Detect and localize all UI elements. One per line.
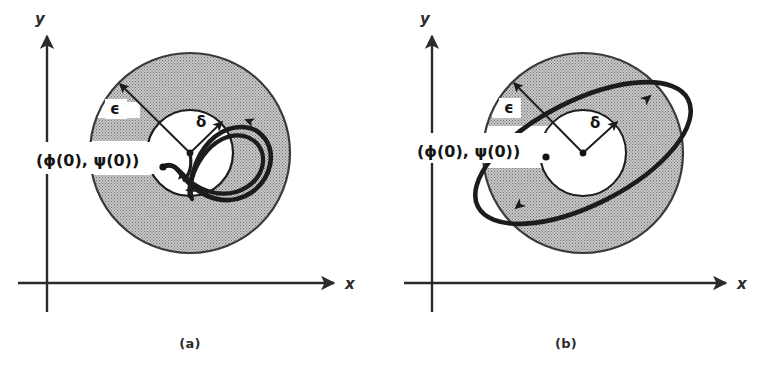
panel-a: y x ϵ δ xyxy=(0,0,386,365)
panel-b: y x ϵ xyxy=(386,0,772,365)
center-dot-b xyxy=(580,150,587,157)
initial-point-label-a: (ϕ(0), ψ(0)) xyxy=(36,151,139,170)
initial-point-a: (ϕ(0), ψ(0)) xyxy=(33,142,167,174)
initial-point-dot-a xyxy=(159,163,166,170)
panel-a-canvas: y x ϵ δ xyxy=(0,0,386,365)
delta-label-a: δ xyxy=(196,113,206,131)
initial-point-dot-b xyxy=(542,153,549,160)
epsilon-label-a: ϵ xyxy=(110,100,120,118)
caption-b: (b) xyxy=(373,336,759,351)
epsilon-label-b: ϵ xyxy=(504,99,514,117)
initial-point-b: (ϕ(0), ψ(0)) xyxy=(414,133,550,163)
figure-root: y x ϵ δ xyxy=(0,0,772,365)
initial-point-label-b: (ϕ(0), ψ(0)) xyxy=(417,142,520,161)
panel-b-canvas: y x ϵ xyxy=(386,0,772,365)
caption-a: (a) xyxy=(0,336,383,351)
delta-label-b: δ xyxy=(590,114,600,132)
